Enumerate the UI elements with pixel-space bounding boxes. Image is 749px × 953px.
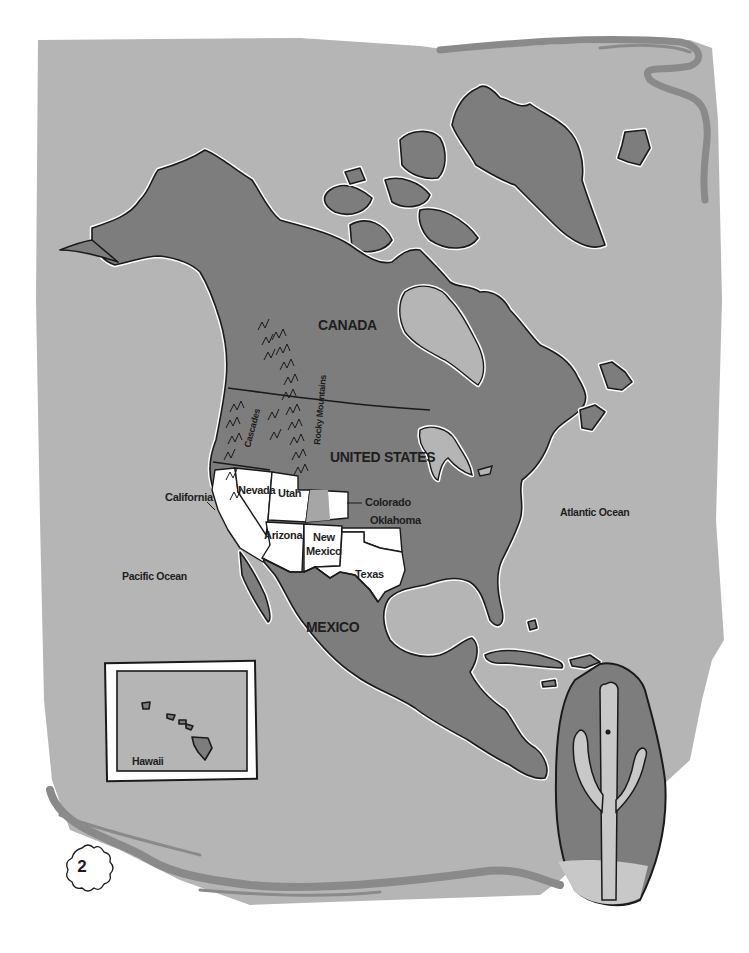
label-mexico: MEXICO xyxy=(306,619,360,635)
iceland xyxy=(618,130,650,165)
label-colorado: Colorado xyxy=(365,496,411,508)
label-united-states: UNITED STATES xyxy=(330,449,435,465)
label-canada: CANADA xyxy=(318,317,377,333)
label-california: California xyxy=(165,491,214,503)
label-new-mexico-1: New xyxy=(313,531,335,543)
label-nevada: Nevada xyxy=(238,484,277,496)
label-atlantic-ocean: Atlantic Ocean xyxy=(560,506,629,518)
label-arizona: Arizona xyxy=(264,529,303,541)
page-number: 2 xyxy=(77,857,86,876)
label-hawaii: Hawaii xyxy=(132,755,164,767)
label-oklahoma: Oklahoma xyxy=(370,514,422,526)
label-utah: Utah xyxy=(278,487,302,499)
label-texas: Texas xyxy=(355,568,384,580)
hawaii-inset: Hawaii xyxy=(105,661,257,782)
page-number-badge: 2 xyxy=(67,845,113,891)
north-america-map: Hawaii CANADA UNITED STATES MEXICO Calif… xyxy=(0,0,749,953)
label-pacific-ocean: Pacific Ocean xyxy=(122,570,187,582)
label-new-mexico-2: Mexico xyxy=(306,545,342,557)
